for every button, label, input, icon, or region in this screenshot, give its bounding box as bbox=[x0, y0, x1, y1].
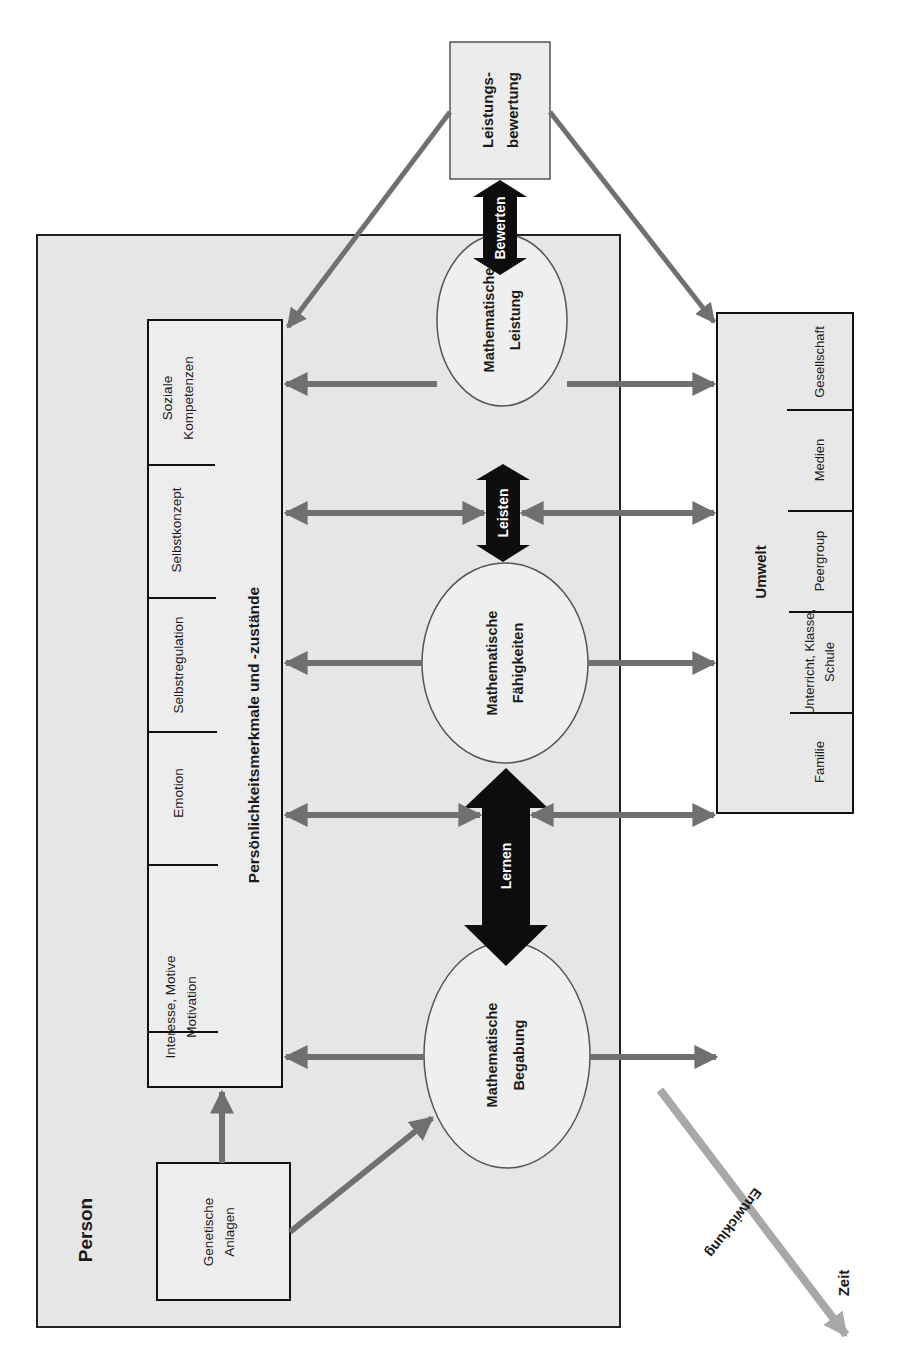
evaluation-label-line2: bewertung bbox=[504, 72, 521, 148]
personality-item-soziale-line2: Kompetenzen bbox=[181, 356, 196, 439]
personality-item-selbstkonzept: Selbstkonzept bbox=[169, 487, 184, 572]
environment-box bbox=[717, 313, 853, 813]
leistung-label-line2: Leistung bbox=[507, 290, 523, 350]
personality-item-interest: Interesse, Motive bbox=[163, 956, 178, 1059]
ellipse-begabung bbox=[424, 942, 590, 1168]
genetics-label-line2: Anlagen bbox=[222, 1207, 237, 1257]
environment-item-unterricht-line2: Schule bbox=[822, 642, 837, 682]
diagram-canvas: Person Interesse, Motive Motivation Emot… bbox=[0, 0, 898, 1367]
evaluation-label-line1: Leistungs- bbox=[479, 72, 496, 148]
environment-title: Umwelt bbox=[752, 545, 769, 598]
personality-item-selbstregulation: Selbstregulation bbox=[171, 617, 186, 714]
begabung-label-line1: Mathematische bbox=[484, 1003, 500, 1108]
evaluation-box bbox=[450, 42, 550, 179]
genetics-label-line1: Genetische bbox=[201, 1198, 216, 1266]
person-title: Person bbox=[75, 1198, 96, 1262]
personality-item-interest-line2: Motivation bbox=[184, 976, 199, 1038]
environment-item-medien: Medien bbox=[812, 439, 827, 482]
begabung-label-line2: Begabung bbox=[511, 1020, 527, 1091]
lernen-label: Lernen bbox=[498, 843, 514, 890]
personality-item-soziale: Soziale bbox=[160, 376, 175, 420]
faehigkeiten-label-line2: Fähigkeiten bbox=[510, 623, 526, 704]
bewerten-label: Bewerten bbox=[492, 196, 508, 259]
environment-item-unterricht: Unterricht, Klasse, bbox=[802, 609, 817, 715]
leistung-label-line1: Mathematische bbox=[481, 268, 497, 373]
environment-item-familie: Familie bbox=[812, 741, 827, 783]
leisten-label: Leisten bbox=[495, 488, 511, 537]
time-label: Zeit bbox=[835, 1270, 852, 1297]
ellipse-faehigkeiten bbox=[422, 563, 588, 763]
personality-item-emotion: Emotion bbox=[171, 768, 186, 818]
environment-item-peergroup: Peergroup bbox=[812, 531, 827, 592]
faehigkeiten-label-line1: Mathematische bbox=[484, 611, 500, 716]
environment-item-gesellschaft: Gesellschaft bbox=[812, 326, 827, 398]
development-label: Entwicklung bbox=[703, 1185, 765, 1260]
personality-title: Persönlichkeitsmerkmale und -zustände bbox=[245, 586, 262, 883]
